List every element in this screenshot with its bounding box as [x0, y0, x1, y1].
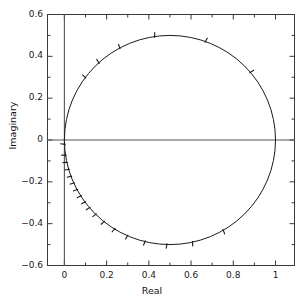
x-tick-label: 1	[256, 271, 296, 280]
chart-figure: −0.6−0.4−0.200.20.40.600.20.40.60.81 Rea…	[0, 0, 304, 301]
y-tick-label: 0.6	[2, 10, 43, 19]
x-tick-label: 0.4	[129, 271, 169, 280]
y-axis-label: Imaginary	[7, 88, 18, 164]
x-axis-label: Real	[0, 285, 304, 296]
y-tick-label: 0.4	[2, 51, 43, 60]
x-tick-label: 0.6	[171, 271, 211, 280]
x-tick-label: 0	[44, 271, 84, 280]
x-tick-label: 0.8	[213, 271, 253, 280]
y-tick-label: −0.2	[2, 177, 43, 186]
plot-canvas	[0, 0, 304, 301]
x-tick-label: 0.2	[87, 271, 127, 280]
y-tick-label: −0.4	[2, 219, 43, 228]
y-tick-label: −0.6	[2, 261, 43, 270]
